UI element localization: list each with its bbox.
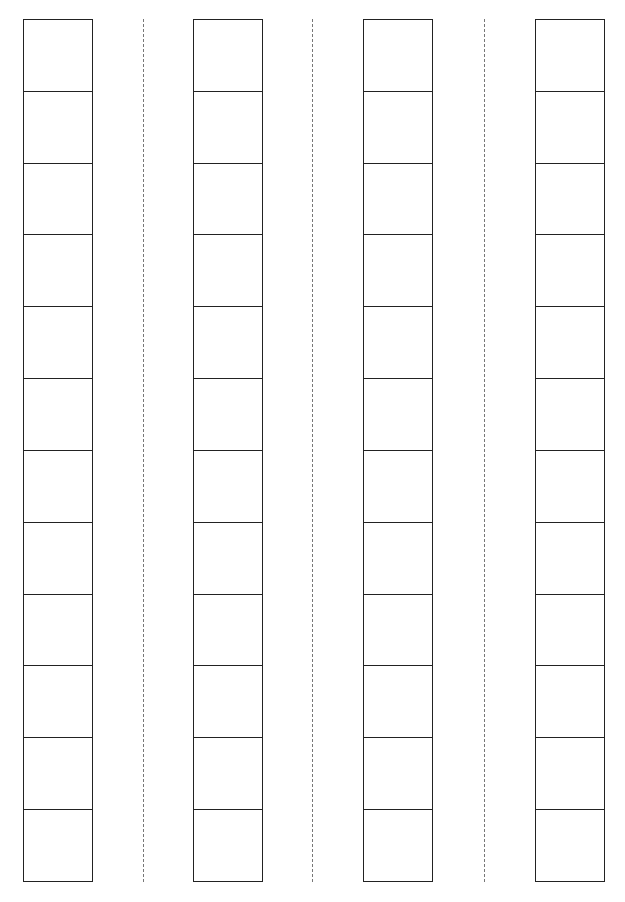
blank-cell [536, 666, 604, 738]
blank-cell [536, 379, 604, 451]
blank-cell [194, 451, 262, 523]
blank-cell [536, 738, 604, 810]
blank-cell [24, 20, 92, 92]
blank-cell [364, 666, 432, 738]
blank-cell [536, 451, 604, 523]
blank-cell [364, 379, 432, 451]
blank-cell [24, 92, 92, 164]
blank-cell [24, 523, 92, 595]
blank-cell [364, 523, 432, 595]
blank-cell [194, 810, 262, 881]
blank-cell [536, 92, 604, 164]
blank-cell [24, 307, 92, 379]
blank-cell [24, 595, 92, 667]
blank-cell [364, 738, 432, 810]
blank-cell [24, 810, 92, 881]
blank-cell [194, 92, 262, 164]
blank-cell [364, 307, 432, 379]
blank-cell [364, 92, 432, 164]
blank-cell [364, 164, 432, 236]
worksheet-page [0, 0, 625, 902]
cell-column [535, 19, 605, 882]
cell-column [363, 19, 433, 882]
blank-cell [194, 738, 262, 810]
blank-cell [194, 666, 262, 738]
blank-cell [536, 595, 604, 667]
blank-cell [194, 20, 262, 92]
blank-cell [194, 235, 262, 307]
blank-cell [536, 307, 604, 379]
blank-cell [364, 235, 432, 307]
dashed-cut-line [312, 19, 313, 882]
blank-cell [194, 307, 262, 379]
blank-cell [536, 20, 604, 92]
blank-cell [24, 379, 92, 451]
blank-cell [24, 738, 92, 810]
blank-cell [194, 164, 262, 236]
blank-cell [24, 164, 92, 236]
blank-cell [364, 451, 432, 523]
blank-cell [24, 451, 92, 523]
blank-cell [536, 235, 604, 307]
blank-cell [194, 523, 262, 595]
blank-cell [24, 235, 92, 307]
blank-cell [194, 595, 262, 667]
blank-cell [536, 523, 604, 595]
cell-column [23, 19, 93, 882]
blank-cell [364, 810, 432, 881]
dashed-cut-line [143, 19, 144, 882]
blank-cell [194, 379, 262, 451]
blank-cell [364, 20, 432, 92]
cell-column [193, 19, 263, 882]
blank-cell [24, 666, 92, 738]
blank-cell [536, 810, 604, 881]
dashed-cut-line [484, 19, 485, 882]
blank-cell [536, 164, 604, 236]
blank-cell [364, 595, 432, 667]
